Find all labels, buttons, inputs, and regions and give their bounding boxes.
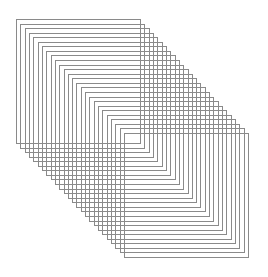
squares-group (17, 20, 249, 258)
square-cascade-artwork (0, 0, 268, 277)
